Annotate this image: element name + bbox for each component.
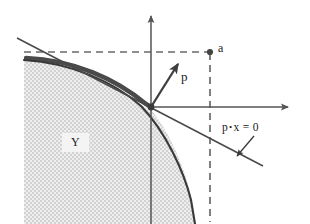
diagram-canvas	[0, 0, 310, 224]
hyperplane-equation-label: p•x = 0	[222, 122, 259, 134]
production-set-label: Y	[62, 133, 89, 152]
vector-p-label: p	[181, 70, 188, 83]
hyperplane-rest-term: x = 0	[234, 121, 259, 133]
price-vector-p	[151, 64, 178, 107]
tangency-point-marker	[148, 104, 155, 111]
figure-container: a p Y p•x = 0	[0, 0, 310, 224]
point-a-marker	[207, 49, 213, 55]
callout-pointer-arrow	[237, 136, 254, 156]
point-a-label: a	[218, 42, 223, 54]
